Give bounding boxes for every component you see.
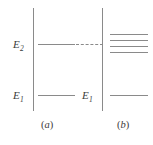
dashed-reference-line (76, 44, 103, 45)
energy-level-e2-panel-a (38, 44, 75, 45)
label-e1-panel-a: E1 (13, 90, 23, 101)
split-level-4-panel-b (110, 52, 148, 53)
label-e1-symbol-b: E (82, 89, 89, 101)
energy-level-e1-panel-a (38, 95, 75, 96)
split-level-3-panel-b (110, 46, 148, 47)
label-e1-symbol: E (13, 89, 20, 101)
label-e1-subscript: 1 (20, 95, 24, 104)
label-e2-subscript: 2 (20, 44, 24, 53)
panel-caption-a: (a) (36, 120, 58, 131)
caption-a-suffix: ) (50, 119, 54, 130)
vertical-axis-panel-a (33, 8, 34, 111)
energy-level-figure: E2 E1 (a) E1 (b) (0, 0, 153, 145)
label-e1-panel-b: E1 (82, 90, 92, 101)
label-e2-panel-a: E2 (13, 39, 23, 50)
label-e2-symbol: E (13, 38, 20, 50)
vertical-axis-panel-b (102, 8, 103, 111)
caption-b-suffix: ) (126, 119, 130, 130)
split-level-2-panel-b (110, 40, 148, 41)
split-level-1-panel-b (110, 34, 148, 35)
energy-level-e1-panel-b (110, 95, 148, 96)
label-e1-subscript-b: 1 (89, 95, 93, 104)
panel-caption-b: (b) (112, 120, 134, 131)
